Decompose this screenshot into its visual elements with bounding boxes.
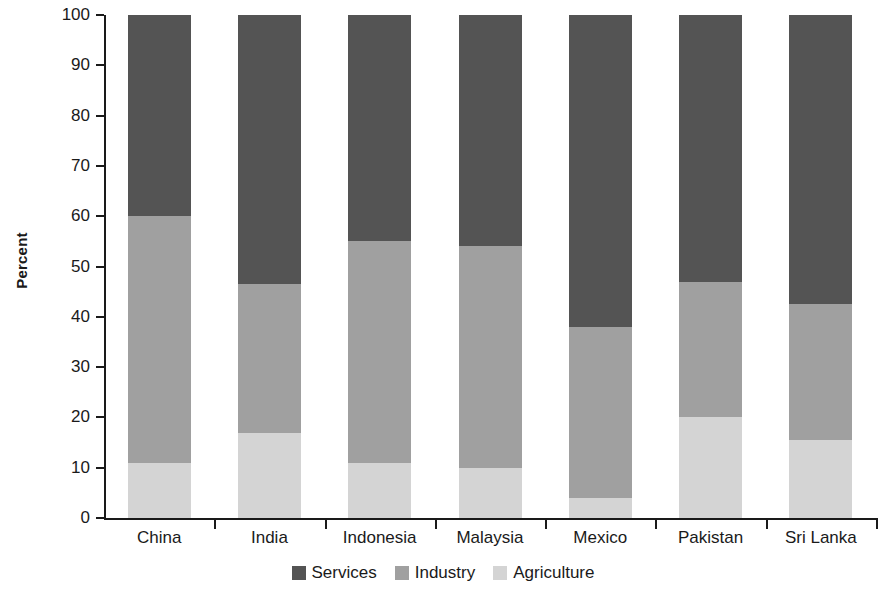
bar-segment-industry[interactable]	[348, 241, 411, 462]
bar-group[interactable]	[789, 15, 852, 518]
bar-segment-industry[interactable]	[789, 304, 852, 440]
y-axis-tick-label: 10	[71, 457, 90, 479]
legend-item-services[interactable]: Services	[292, 563, 377, 583]
bar-group[interactable]	[238, 15, 301, 518]
bar-group[interactable]	[569, 15, 632, 518]
x-axis-label-pakistan: Pakistan	[655, 528, 765, 548]
bar-segment-industry[interactable]	[459, 246, 522, 467]
y-axis-tick-mark	[96, 266, 104, 268]
y-axis-tick-label: 30	[71, 356, 90, 378]
y-axis-tick-label: 100	[62, 4, 90, 26]
stacked-bar-chart: Percent 0102030405060708090100 ChinaIndi…	[0, 0, 886, 597]
x-axis-label-malaysia: Malaysia	[435, 528, 545, 548]
bar-group[interactable]	[348, 15, 411, 518]
x-axis-label-indonesia: Indonesia	[325, 528, 435, 548]
legend-label: Services	[312, 563, 377, 583]
legend-label: Agriculture	[513, 563, 594, 583]
x-axis-label-mexico: Mexico	[545, 528, 655, 548]
y-axis-tick-label: 70	[71, 155, 90, 177]
y-axis-title: Percent	[6, 0, 36, 520]
y-axis-tick-mark	[96, 115, 104, 117]
legend-swatch-agriculture	[493, 566, 507, 580]
x-axis-label-china: China	[104, 528, 214, 548]
x-axis-label-india: India	[214, 528, 324, 548]
y-axis-tick-label: 60	[71, 205, 90, 227]
bar-segment-agriculture[interactable]	[789, 440, 852, 518]
y-axis-tick-mark	[96, 14, 104, 16]
y-axis-tick-label: 20	[71, 406, 90, 428]
y-axis-tick-label: 80	[71, 105, 90, 127]
bar-segment-agriculture[interactable]	[238, 433, 301, 519]
y-axis-tick-label: 0	[81, 507, 90, 529]
bar-segment-services[interactable]	[679, 15, 742, 282]
y-axis-tick-mark	[96, 316, 104, 318]
bar-group[interactable]	[679, 15, 742, 518]
y-axis-tick-mark	[96, 64, 104, 66]
chart-legend: ServicesIndustryAgriculture	[0, 563, 886, 583]
y-axis-tick-mark	[96, 215, 104, 217]
bar-segment-industry[interactable]	[679, 282, 742, 418]
y-axis-tick-mark	[96, 416, 104, 418]
bar-segment-services[interactable]	[238, 15, 301, 284]
bar-segment-services[interactable]	[128, 15, 191, 216]
bar-segment-agriculture[interactable]	[348, 463, 411, 518]
bar-segment-services[interactable]	[569, 15, 632, 327]
y-axis-tick-label: 40	[71, 306, 90, 328]
y-axis-tick-mark	[96, 366, 104, 368]
y-axis-tick-mark	[96, 165, 104, 167]
bar-group[interactable]	[459, 15, 522, 518]
y-axis-tick-mark	[96, 467, 104, 469]
bar-segment-agriculture[interactable]	[459, 468, 522, 518]
bar-segment-industry[interactable]	[238, 284, 301, 432]
bar-segment-agriculture[interactable]	[569, 498, 632, 518]
bar-segment-services[interactable]	[459, 15, 522, 246]
y-axis-title-text: Percent	[13, 232, 30, 288]
legend-label: Industry	[415, 563, 475, 583]
x-axis-label-sri-lanka: Sri Lanka	[766, 528, 876, 548]
bar-segment-agriculture[interactable]	[679, 417, 742, 518]
x-axis-line	[104, 518, 876, 520]
legend-item-industry[interactable]: Industry	[395, 563, 475, 583]
bar-segment-agriculture[interactable]	[128, 463, 191, 518]
bar-group[interactable]	[128, 15, 191, 518]
x-axis-tick-mark	[876, 518, 878, 529]
y-axis-tick-label: 50	[71, 256, 90, 278]
legend-item-agriculture[interactable]: Agriculture	[493, 563, 594, 583]
bar-segment-industry[interactable]	[128, 216, 191, 462]
plot-area	[104, 15, 874, 518]
bar-segment-industry[interactable]	[569, 327, 632, 498]
legend-swatch-services	[292, 566, 306, 580]
legend-swatch-industry	[395, 566, 409, 580]
bar-segment-services[interactable]	[348, 15, 411, 241]
y-axis-tick-label: 90	[71, 54, 90, 76]
bar-segment-services[interactable]	[789, 15, 852, 304]
y-axis-tick-mark	[96, 517, 104, 519]
